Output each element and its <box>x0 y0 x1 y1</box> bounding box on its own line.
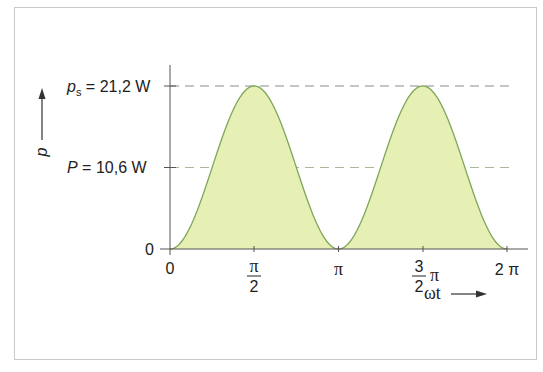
power-chart: ps = 21,2 W P = 10,6 W 0 p 0 π 2 π 3 2 π… <box>0 0 543 372</box>
svg-text:π: π <box>430 265 439 285</box>
x-axis-title: ωt <box>424 283 487 303</box>
x-tick-0: 0 <box>166 260 175 277</box>
y-arrow-icon <box>39 88 46 99</box>
ps-label: ps = 21,2 W <box>66 78 151 98</box>
x-arrow-icon <box>476 291 487 298</box>
x-tick-pi: π <box>334 259 343 279</box>
y-axis-label: p <box>33 147 50 157</box>
P-label: P = 10,6 W <box>67 159 147 176</box>
svg-text:π: π <box>249 256 258 276</box>
y-zero-label: 0 <box>145 241 154 258</box>
svg-text:2: 2 <box>250 278 259 295</box>
x-tick-half-pi: π 2 <box>247 256 261 295</box>
y-axis-title: p <box>33 88 50 157</box>
x-tick-2pi: 2 π <box>495 261 519 278</box>
x-axis-label: ωt <box>424 283 441 303</box>
svg-text:3: 3 <box>415 258 424 275</box>
svg-text:2: 2 <box>415 278 424 295</box>
